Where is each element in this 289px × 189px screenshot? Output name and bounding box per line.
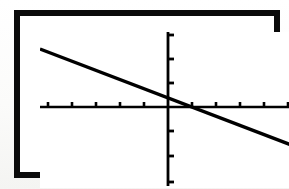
calculator-screenshot xyxy=(0,0,289,189)
plotted-line xyxy=(40,49,289,146)
graph-svg xyxy=(40,32,289,188)
graph-plot-area xyxy=(40,32,289,188)
calculator-screen-frame xyxy=(14,10,280,178)
